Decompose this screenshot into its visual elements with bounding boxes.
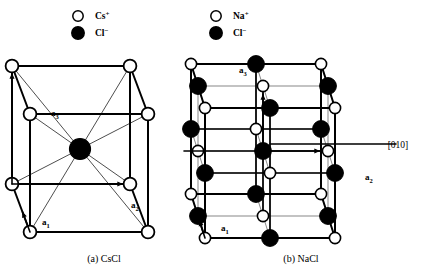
- caption-cscl: (a) CsCl: [87, 253, 121, 265]
- legend-marker-na: [211, 11, 221, 21]
- ion-cl: [320, 208, 337, 225]
- direction-label-010: [010]: [388, 140, 409, 150]
- ion-na: [264, 167, 275, 178]
- legend-marker-cl: [72, 27, 84, 39]
- ion-cl: [320, 78, 337, 95]
- ion-na: [250, 123, 261, 134]
- ion-cl: [190, 208, 207, 225]
- ion-cl: [248, 186, 265, 203]
- figure-canvas: a1a2a3Cs+Cl−(a) CsCl [010]a1a2a3Na+Cl−(b…: [0, 0, 437, 277]
- ion-cs-corner: [24, 108, 37, 121]
- ion-cs-corner: [124, 60, 137, 73]
- ion-na: [329, 232, 340, 243]
- ion-na: [322, 145, 333, 156]
- ion-na: [199, 102, 210, 113]
- ion-cl: [183, 121, 200, 138]
- ion-na: [185, 188, 196, 199]
- ion-cs-corner: [142, 108, 155, 121]
- ion-cl: [248, 56, 265, 73]
- ion-cl: [313, 121, 330, 138]
- caption-nacl: (b) NaCl: [283, 253, 318, 265]
- ion-cl-center: [70, 139, 91, 160]
- legend-marker-cs: [73, 11, 83, 21]
- ion-na: [257, 210, 268, 221]
- ion-na: [315, 58, 326, 69]
- ion-cs-corner: [142, 226, 155, 239]
- ion-cl: [262, 230, 279, 247]
- ion-cl: [197, 165, 214, 182]
- ion-cs-corner: [124, 178, 137, 191]
- ion-na: [185, 58, 196, 69]
- ion-na: [315, 188, 326, 199]
- ion-cl: [327, 165, 344, 182]
- legend-marker-cl: [210, 27, 222, 39]
- ion-cl: [262, 100, 279, 117]
- ion-na: [257, 80, 268, 91]
- ion-cl: [190, 78, 207, 95]
- ion-na: [329, 102, 340, 113]
- ion-cs-corner: [6, 60, 19, 73]
- crystal-structure-figure: a1a2a3Cs+Cl−(a) CsCl [010]a1a2a3Na+Cl−(b…: [0, 0, 437, 277]
